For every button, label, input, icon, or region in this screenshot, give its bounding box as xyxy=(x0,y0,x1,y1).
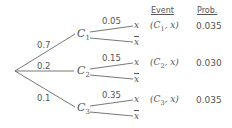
prob-1: 0.035 xyxy=(196,22,222,31)
header-prob: Prob. xyxy=(197,7,217,15)
leaf-notx-1: x xyxy=(134,38,139,47)
prob-2: 0.030 xyxy=(196,59,222,68)
edge-label-c2: 0.2 xyxy=(37,62,51,71)
prob-3: 0.035 xyxy=(196,96,222,105)
node-c3: C3 xyxy=(77,102,90,116)
leaf-notx-3: x xyxy=(134,112,139,121)
event-1: (C1, x) xyxy=(150,21,179,32)
branch-label-1: 0.05 xyxy=(102,17,121,26)
branch-label-2: 0.15 xyxy=(102,54,121,63)
event-2: (C2, x) xyxy=(150,58,179,69)
branch-label-3: 0.35 xyxy=(102,91,121,100)
edge-label-c3: 0.1 xyxy=(37,94,51,103)
node-c2: C2 xyxy=(77,65,90,79)
header-event: Event xyxy=(151,7,174,15)
node-c1: C1 xyxy=(77,28,90,42)
leaf-x-2: x xyxy=(134,58,139,67)
event-3: (C3, x) xyxy=(150,95,179,106)
leaf-notx-2: x xyxy=(134,75,139,84)
edge-label-c1: 0.7 xyxy=(37,41,51,50)
leaf-x-3: x xyxy=(134,95,139,104)
leaf-x-1: x xyxy=(134,21,139,30)
